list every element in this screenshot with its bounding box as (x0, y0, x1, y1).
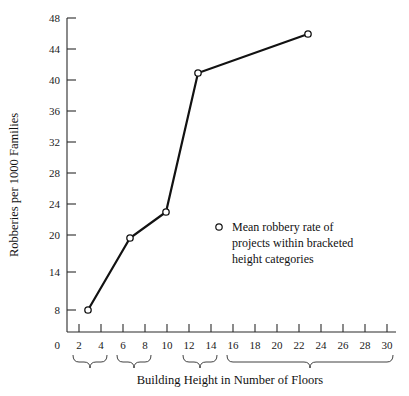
legend-label-line-2: projects within bracketed (232, 236, 353, 250)
x-tick-label-14: 14 (206, 339, 218, 351)
bracket-2-4 (73, 355, 107, 368)
data-point-1 (85, 307, 91, 313)
bracket-12-14 (183, 355, 217, 368)
chart-legend: Mean robbery rate of projects within bra… (216, 220, 353, 266)
x-tick-label-4: 4 (98, 339, 104, 351)
y-tick-label-0: 0 (55, 339, 61, 351)
x-tick-label-10: 10 (162, 339, 174, 351)
x-tick-marks (79, 324, 387, 332)
y-tick-label-24: 24 (49, 198, 61, 210)
open-circle-marker-icon (216, 224, 222, 230)
chart-figure: 48 44 40 36 32 28 24 20 14 8 0 (0, 0, 409, 396)
x-tick-label-2: 2 (76, 339, 82, 351)
x-axis-title: Building Height in Number of Floors (137, 373, 324, 387)
y-tick-label-20: 20 (49, 229, 61, 241)
chart-canvas: 48 44 40 36 32 28 24 20 14 8 0 (0, 0, 409, 396)
x-tick-label-22: 22 (294, 339, 305, 351)
x-tick-label-30: 30 (382, 339, 394, 351)
x-tick-label-20: 20 (272, 339, 284, 351)
y-axis-title: Robberies per 1000 Families (7, 113, 21, 257)
y-tick-label-32: 32 (49, 136, 60, 148)
data-point-3 (163, 209, 169, 215)
x-tick-label-18: 18 (250, 339, 262, 351)
x-tick-label-26: 26 (338, 339, 350, 351)
x-tick-label-28: 28 (360, 339, 372, 351)
x-tick-label-12: 12 (184, 339, 195, 351)
data-point-2 (127, 235, 133, 241)
y-tick-marks (67, 18, 76, 310)
data-point-4 (195, 70, 201, 76)
category-brackets (73, 355, 393, 368)
y-tick-label-14: 14 (49, 266, 61, 278)
data-point-markers (85, 31, 311, 313)
bracket-6-8 (117, 355, 151, 368)
legend-label-line-1: Mean robbery rate of (232, 220, 334, 234)
y-tick-label-44: 44 (49, 43, 61, 55)
x-tick-label-6: 6 (120, 339, 126, 351)
y-tick-label-40: 40 (49, 74, 61, 86)
bracket-16-30 (227, 355, 393, 368)
x-tick-label-16: 16 (228, 339, 240, 351)
y-tick-label-28: 28 (49, 167, 61, 179)
y-tick-label-8: 8 (55, 304, 61, 316)
y-tick-label-36: 36 (49, 105, 61, 117)
data-point-5 (305, 31, 311, 37)
x-tick-label-8: 8 (142, 339, 148, 351)
y-tick-label-48: 48 (49, 12, 61, 24)
x-tick-label-24: 24 (316, 339, 328, 351)
legend-label-line-3: height categories (232, 252, 314, 266)
